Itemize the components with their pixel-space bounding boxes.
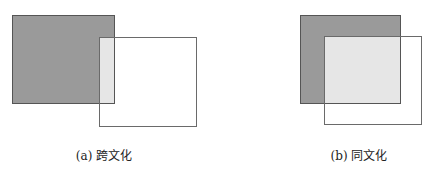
- panel-b-outline-square: [324, 36, 422, 125]
- panel-a-outline-square: [99, 37, 197, 127]
- panel-a-caption: (a) 跨文化: [76, 146, 132, 163]
- panel-b-caption: (b) 同文化: [331, 146, 388, 163]
